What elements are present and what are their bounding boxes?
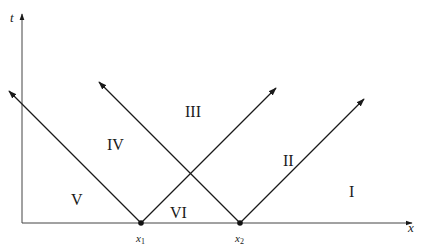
characteristic-x2-right bbox=[240, 99, 364, 223]
region-IV-label: IV bbox=[107, 136, 124, 153]
x-axis-label: x bbox=[407, 220, 414, 235]
region-III-label: III bbox=[185, 103, 201, 120]
point-x1-dot bbox=[138, 220, 144, 226]
region-I-label: I bbox=[349, 183, 354, 200]
region-VI-label: VI bbox=[170, 204, 187, 221]
point-x1-label: x1 bbox=[135, 232, 145, 246]
region-II-label: II bbox=[283, 152, 294, 169]
region-V-label: V bbox=[71, 191, 83, 208]
characteristics-diagram: t x x1 x2 I II III IV V VI bbox=[0, 0, 421, 248]
point-x2-label: x2 bbox=[234, 232, 244, 246]
characteristic-x1-right bbox=[141, 88, 276, 223]
point-x2-dot bbox=[237, 220, 243, 226]
t-axis-label: t bbox=[10, 10, 14, 25]
